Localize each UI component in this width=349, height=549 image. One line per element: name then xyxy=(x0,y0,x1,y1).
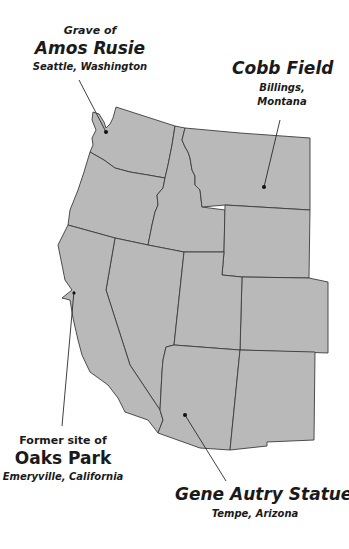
label-name: Amos Rusie xyxy=(30,38,150,58)
label-name: Oaks Park xyxy=(2,448,124,468)
marker-oaks-park xyxy=(72,291,75,294)
state-new-mexico xyxy=(230,350,315,450)
label-location-line2: Montana xyxy=(232,95,332,109)
leader-line-amos-rusie xyxy=(79,80,106,132)
label-location: Seattle, Washington xyxy=(30,60,150,74)
state-arizona xyxy=(158,345,240,450)
marker-gene-autry xyxy=(183,413,187,417)
state-montana xyxy=(182,128,310,210)
marker-amos-rusie xyxy=(104,130,108,134)
label-name: Cobb Field xyxy=(232,58,332,78)
label-location-line1: Billings, xyxy=(232,81,332,95)
leader-line-oaks-park xyxy=(62,291,74,426)
marker-cobb-field xyxy=(262,185,266,189)
label-amos-rusie: Grave of Amos Rusie Seattle, Washington xyxy=(30,24,150,74)
state-colorado xyxy=(240,277,328,353)
label-location: Emeryville, California xyxy=(2,470,124,484)
label-cobb-field: Cobb Field Billings, Montana xyxy=(232,58,332,109)
label-oaks-park: Former site of Oaks Park Emeryville, Cal… xyxy=(2,434,124,484)
label-name: Gene Autry Statue xyxy=(175,484,335,504)
label-gene-autry-statue: Gene Autry Statue Tempe, Arizona xyxy=(175,484,335,521)
label-location: Tempe, Arizona xyxy=(175,507,335,521)
state-wyoming xyxy=(222,205,310,278)
label-prefix: Former site of xyxy=(2,434,124,448)
label-prefix: Grave of xyxy=(30,24,150,38)
